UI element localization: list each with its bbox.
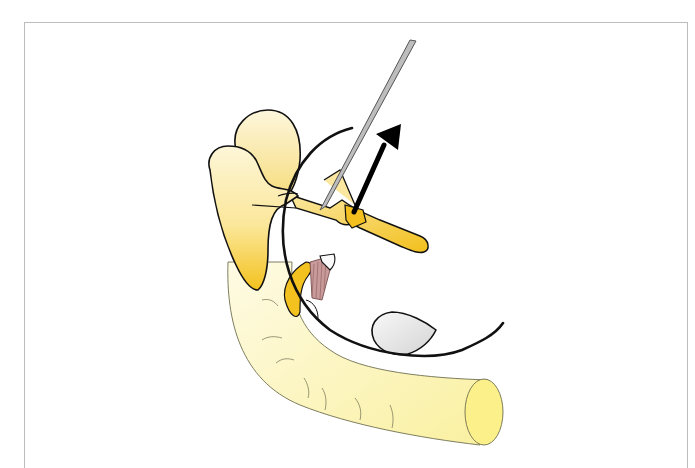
curved-tube — [228, 262, 503, 445]
process-arm — [290, 170, 428, 253]
white-nodule — [372, 312, 436, 354]
illustration — [0, 0, 695, 468]
